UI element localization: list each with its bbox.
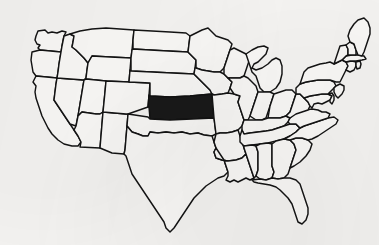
- us-states-map: [0, 0, 379, 245]
- state-oregon[interactable]: [31, 50, 61, 78]
- state-new-jersey[interactable]: [334, 84, 344, 98]
- states-layer: [31, 18, 370, 232]
- state-north-dakota[interactable]: [133, 30, 190, 52]
- state-colorado[interactable]: [103, 81, 150, 114]
- us-map-figure: [0, 0, 379, 245]
- state-connecticut[interactable]: [346, 61, 356, 72]
- state-rhode-island[interactable]: [356, 61, 361, 69]
- state-florida[interactable]: [252, 178, 308, 224]
- state-new-mexico[interactable]: [100, 112, 128, 154]
- state-wyoming[interactable]: [86, 56, 131, 82]
- state-new-york[interactable]: [300, 60, 348, 84]
- state-texas[interactable]: [124, 126, 228, 232]
- state-south-dakota[interactable]: [131, 49, 196, 74]
- state-kansas[interactable]: [148, 94, 214, 120]
